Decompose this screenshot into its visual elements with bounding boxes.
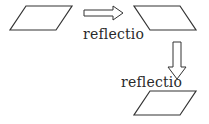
reflected-parallelogram-2	[134, 91, 196, 115]
reflection-label-1: reflectio	[83, 27, 144, 41]
arrow-right-icon	[84, 6, 123, 20]
reflection-label-2: reflectio	[121, 75, 182, 89]
original-parallelogram	[10, 6, 72, 30]
reflection-diagram	[0, 0, 209, 124]
